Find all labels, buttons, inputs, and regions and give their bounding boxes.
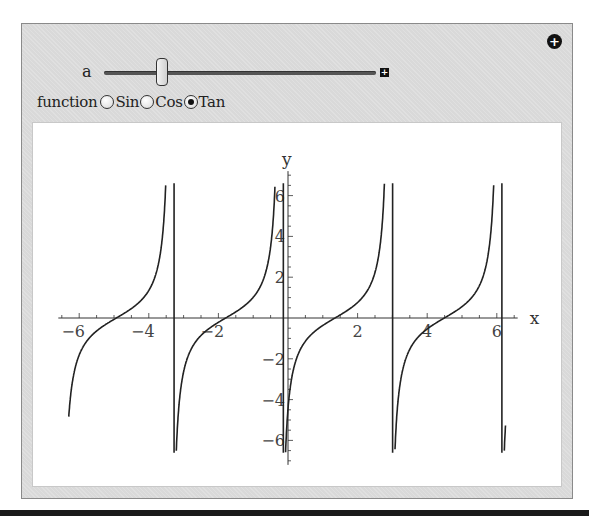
- bottom-bar: [0, 510, 589, 516]
- x-tick-label: −4: [131, 322, 155, 341]
- tan-curve-segment: [504, 426, 505, 451]
- x-tick-label: 6: [492, 322, 502, 341]
- y-tick-label: −4: [261, 391, 285, 410]
- y-tick-label: −6: [261, 431, 285, 450]
- x-tick-label: 2: [353, 322, 363, 341]
- tan-curve-segment: [69, 185, 166, 416]
- x-tick-label: −6: [61, 322, 85, 341]
- tangent-plot: −6−4−2246−6−4−2246xy: [0, 0, 589, 516]
- tan-curve-segment: [176, 187, 275, 451]
- x-axis-label: x: [530, 308, 540, 328]
- y-axis-label: y: [281, 149, 292, 169]
- y-tick-label: −2: [261, 350, 285, 369]
